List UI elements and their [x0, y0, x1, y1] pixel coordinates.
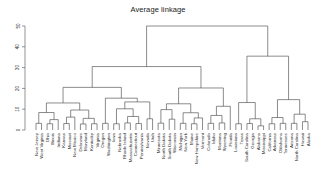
dendrogram-link [83, 118, 94, 124]
dendrogram-links [36, 26, 308, 130]
leaf-label: Louisiana [233, 132, 238, 151]
leaf-label: Ohio [45, 132, 50, 142]
dendrogram-link [219, 123, 225, 130]
leaf-label: Colorado [206, 132, 211, 150]
dendrogram-link [236, 124, 242, 130]
dendrogram-link [46, 103, 79, 113]
leaf-label: Minnesota [156, 132, 161, 153]
leaf-label: South Dakota [167, 132, 172, 159]
leaf-label: Illinois [50, 132, 55, 145]
dendrogram-link [211, 115, 222, 123]
dendrogram-link [114, 124, 120, 130]
y-axis-tick-label: 50 [16, 23, 21, 29]
y-axis-tick-label: 20 [16, 85, 21, 91]
dendrogram-link [36, 123, 42, 130]
dendrogram-link [147, 119, 153, 130]
leaf-label: Nebraska [117, 132, 122, 151]
dendrogram-link [247, 56, 289, 102]
y-axis-tick-label: 10 [16, 106, 21, 112]
dendrogram-link [302, 122, 308, 130]
dendrogram-link [63, 87, 121, 103]
leaf-label: Wisconsin [172, 132, 177, 153]
leaf-label: Iowa [111, 132, 116, 142]
dendrogram-link [269, 124, 275, 130]
dendrogram-link [92, 67, 201, 88]
leaf-label: Pennsylvania [139, 132, 144, 159]
dendrogram-link [39, 113, 54, 124]
dendrogram-link [258, 126, 264, 130]
dendrogram-link [147, 26, 268, 67]
leaf-label: Oklahoma [278, 132, 283, 153]
dendrogram-link [103, 123, 109, 130]
y-axis-tick-label: 0 [16, 128, 21, 131]
leaf-label: Wyoming [222, 132, 227, 151]
leaf-label: Tennessee [283, 132, 288, 154]
dendrogram-link [280, 123, 286, 130]
leaf-label: Rhode Island [122, 132, 127, 158]
y-axis-tick-label: 40 [16, 44, 21, 50]
leaf-label: Nevada [145, 132, 150, 148]
leaf-label: West Virginia [39, 132, 44, 158]
dendrogram-link [136, 124, 142, 130]
dendrogram-link [272, 118, 283, 124]
leaf-label: South Carolina [244, 132, 249, 162]
leaf-label: Kansas [61, 132, 66, 147]
dendrogram-link [239, 103, 256, 124]
leaf-label: Maryland [83, 132, 88, 151]
leaf-label: Indiana [56, 132, 61, 147]
leaf-label: Utah [150, 132, 155, 142]
dendrogram-figure: Average linkage 01020304050New JerseyWes… [0, 0, 316, 196]
leaf-label: Connecticut [133, 132, 138, 156]
leaf-label: Michigan [178, 132, 183, 150]
leaf-label: Arizona [289, 132, 294, 147]
dendrogram-link [169, 119, 175, 130]
leaf-label: Massachusetts [128, 132, 133, 162]
dendrogram-link [161, 110, 172, 124]
dendrogram-link [166, 104, 190, 113]
leaf-label: New Mexico [72, 132, 77, 156]
leaf-label: Kentucky [89, 132, 94, 151]
leaf-label: Washington [106, 132, 111, 156]
dendrogram-link [250, 119, 261, 126]
leaf-label: Missouri [67, 133, 72, 149]
leaf-label: Hawaii [300, 133, 305, 146]
leaf-label: Maine [189, 132, 194, 145]
leaf-label: Idaho [211, 132, 216, 144]
leaf-label: Georgia [250, 132, 255, 148]
dendrogram-link [47, 124, 53, 130]
dendrogram-link [277, 100, 299, 118]
dendrogram-link [247, 124, 253, 130]
dendrogram-link [208, 123, 214, 130]
dendrogram-link [180, 123, 186, 130]
dendrogram-link [64, 124, 70, 130]
dendrogram-link [158, 123, 164, 130]
leaf-label: New York [183, 132, 188, 151]
dendrogram-link [216, 106, 230, 130]
leaf-label: North Dakota [161, 132, 166, 158]
dendrogram-link [50, 120, 58, 130]
y-axis-tick-label: 30 [16, 65, 21, 71]
leaf-label: New Jersey [34, 132, 39, 156]
dendrogram-link [128, 116, 139, 123]
y-axis: 01020304050 [16, 23, 26, 131]
dendrogram-link [291, 123, 297, 130]
leaf-label: New Hampshire [194, 132, 199, 164]
leaf-label: Montana [217, 132, 222, 150]
leaf-label: Delaware [78, 132, 83, 151]
leaf-label: Vermont [200, 132, 205, 149]
leaf-label: Mississippi [261, 133, 266, 154]
dendrogram-link [191, 124, 197, 130]
leaf-label: Alaska [306, 132, 311, 146]
leaf-label: Alabama [256, 132, 261, 150]
dendrogram-link [80, 124, 86, 130]
leaf-label: Texas [239, 132, 244, 144]
leaf-label: Arkansas [272, 132, 277, 151]
leaf-label: Florida [228, 132, 233, 146]
dendrogram-link [125, 123, 131, 130]
leaf-label: Virginia [95, 132, 100, 147]
dendrogram-link [92, 124, 98, 130]
leaf-label: California [267, 132, 272, 151]
leaf-labels: New JerseyWest VirginiaOhioIllinoisIndia… [34, 132, 311, 164]
dendrogram-canvas: 01020304050New JerseyWest VirginiaOhioIl… [0, 0, 316, 196]
leaf-label: Oregon [100, 132, 105, 147]
